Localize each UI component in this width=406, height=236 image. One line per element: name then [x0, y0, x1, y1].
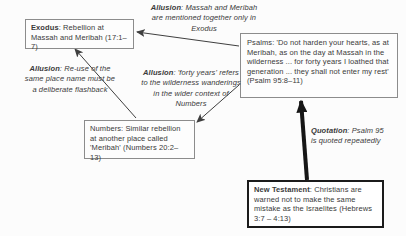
- quotation-arrow-newtestament-to-psalms: [301, 101, 307, 180]
- intertextuality-diagram: Exodus: Rebellion at Massah and Meribah …: [0, 0, 406, 236]
- numbers-box-text: Numbers: Similar rebellion at another pl…: [90, 124, 181, 162]
- allusion-note-massah-meribah-lead: Allusion: [151, 3, 181, 12]
- allusion-note-forty-years-lead: Allusion: [143, 68, 173, 77]
- exodus-box: Exodus: Rebellion at Massah and Meribah …: [25, 19, 134, 49]
- psalms-box-text: Psalms: 'Do not harden your hearts, as a…: [247, 38, 389, 85]
- numbers-box: Numbers: Similar rebellion at another pl…: [84, 120, 195, 159]
- psalms-box: Psalms: 'Do not harden your hearts, as a…: [240, 33, 398, 98]
- new-testament-box: New Testament: Christians are warned not…: [247, 180, 384, 228]
- new-testament-box-lead: New Testament: [254, 185, 310, 194]
- exodus-box-lead: Exodus: [31, 23, 59, 32]
- allusion-note-reuse-place-name: Allusion: Re-use of the same place name …: [24, 64, 116, 95]
- quotation-note-psalm95: Quotation: Psalm 95 is quoted repeatedly: [311, 126, 389, 147]
- allusion-note-massah-meribah: Allusion: Massah and Meribah are mention…: [147, 3, 261, 34]
- quotation-note-psalm95-lead: Quotation: [311, 126, 347, 135]
- allusion-note-reuse-place-name-lead: Allusion: [29, 64, 59, 73]
- allusion-note-forty-years: Allusion: 'forty years' refers to the wi…: [140, 68, 242, 110]
